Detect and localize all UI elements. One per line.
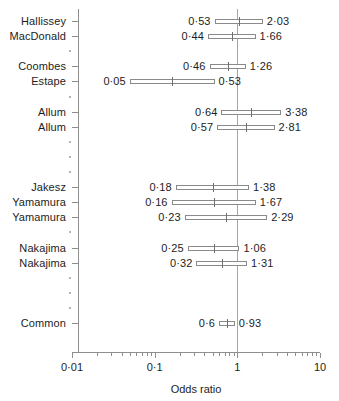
row-spacer-dot xyxy=(69,292,71,294)
x-axis-minor-tick xyxy=(97,353,98,356)
x-axis-minor-tick xyxy=(262,353,263,356)
x-axis-minor-tick xyxy=(229,353,230,356)
x-axis-major-tick xyxy=(237,353,238,358)
y-axis-tick xyxy=(72,66,79,67)
point-estimate-marker-0 xyxy=(239,17,240,26)
x-axis-minor-tick xyxy=(151,353,152,356)
x-axis-minor-tick xyxy=(234,353,235,356)
x-axis-minor-tick xyxy=(122,353,123,356)
y-axis-tick xyxy=(72,248,79,249)
y-axis-tick xyxy=(72,323,79,324)
x-axis-minor-tick xyxy=(225,353,226,356)
ci-upper-label-15: 1·06 xyxy=(243,243,265,254)
row-spacer-dot xyxy=(69,50,71,52)
ci-upper-label-3: 1·26 xyxy=(250,61,272,72)
ci-upper-label-0: 2·03 xyxy=(267,16,289,27)
row-label-jakesz-11: Jakesz xyxy=(31,182,66,193)
y-axis-tick xyxy=(72,202,79,203)
point-estimate-marker-1 xyxy=(232,32,233,41)
x-axis-minor-tick xyxy=(147,353,148,356)
x-axis-minor-tick xyxy=(136,353,137,356)
x-axis-tick-label-2: 1 xyxy=(234,362,240,373)
x-axis-minor-tick xyxy=(194,353,195,356)
y-axis-tick xyxy=(72,127,79,128)
x-axis-minor-tick xyxy=(277,353,278,356)
point-estimate-marker-15 xyxy=(214,244,215,253)
row-spacer-dot xyxy=(69,171,71,173)
row-label-estape-4: Estape xyxy=(31,76,66,87)
row-spacer-dot xyxy=(69,277,71,279)
ci-lower-label-0: 0·53 xyxy=(188,16,210,27)
ci-lower-label-15: 0·25 xyxy=(161,243,183,254)
x-axis-tick-label-3: 10 xyxy=(314,362,326,373)
point-estimate-marker-4 xyxy=(172,77,173,86)
x-axis-minor-tick xyxy=(213,353,214,356)
x-axis-minor-tick xyxy=(130,353,131,356)
ci-upper-label-12: 1·67 xyxy=(260,197,282,208)
x-axis-major-tick xyxy=(320,353,321,358)
row-label-coombes-3: Coombes xyxy=(18,61,66,72)
x-axis-tick-label-0: 0·01 xyxy=(61,362,83,373)
x-axis-minor-tick xyxy=(316,353,317,356)
ci-lower-label-13: 0·23 xyxy=(158,212,180,223)
x-axis-minor-tick xyxy=(180,353,181,356)
row-spacer-dot xyxy=(69,307,71,309)
point-estimate-marker-7 xyxy=(246,123,247,132)
x-axis-minor-tick xyxy=(111,353,112,356)
row-label-nakajima-15: Nakajima xyxy=(19,243,66,254)
ci-lower-label-16: 0·32 xyxy=(170,258,192,269)
row-label-yamamura-13: Yamamura xyxy=(12,212,66,223)
ci-upper-label-7: 2·81 xyxy=(279,122,301,133)
y-axis-tick xyxy=(72,21,79,22)
x-axis-tick-label-1: 0·1 xyxy=(147,362,163,373)
ci-lower-label-12: 0·16 xyxy=(145,197,167,208)
row-spacer-dot xyxy=(69,141,71,143)
ci-lower-label-1: 0·44 xyxy=(181,31,203,42)
point-estimate-marker-13 xyxy=(226,213,227,222)
x-axis-line xyxy=(72,352,320,353)
ci-lower-label-11: 0·18 xyxy=(149,182,171,193)
x-axis-major-tick xyxy=(155,353,156,358)
y-axis-tick xyxy=(72,263,79,264)
row-label-hallissey-0: Hallissey xyxy=(21,16,66,27)
x-axis-minor-tick xyxy=(142,353,143,356)
row-label-macdonald-1: MacDonald xyxy=(9,31,66,42)
reference-line-or-1 xyxy=(237,9,238,352)
row-spacer-dot xyxy=(69,96,71,98)
x-axis-minor-tick xyxy=(295,353,296,356)
row-label-allum-6: Allum xyxy=(38,107,66,118)
ci-upper-label-13: 2·29 xyxy=(271,212,293,223)
x-axis-title: Odds ratio xyxy=(171,384,222,395)
point-estimate-marker-3 xyxy=(228,62,229,71)
ci-upper-label-1: 1·66 xyxy=(260,31,282,42)
ci-lower-label-4: 0·05 xyxy=(103,76,125,87)
x-axis-minor-tick xyxy=(204,353,205,356)
ci-lower-label-20: 0·6 xyxy=(199,318,215,329)
row-spacer-dot xyxy=(69,156,71,158)
y-axis-line xyxy=(78,9,79,352)
x-axis-major-tick xyxy=(72,353,73,358)
point-estimate-marker-20 xyxy=(227,319,228,328)
y-axis-tick xyxy=(72,217,79,218)
row-label-common-20: Common xyxy=(21,318,66,329)
ci-upper-label-6: 3·38 xyxy=(285,107,307,118)
ci-lower-label-3: 0·46 xyxy=(183,61,205,72)
ci-lower-label-7: 0·57 xyxy=(191,122,213,133)
x-axis-minor-tick xyxy=(312,353,313,356)
point-estimate-marker-16 xyxy=(222,259,223,268)
x-axis-minor-tick xyxy=(302,353,303,356)
y-axis-tick xyxy=(72,187,79,188)
row-spacer-dot xyxy=(69,231,71,233)
y-axis-tick xyxy=(72,36,79,37)
point-estimate-marker-6 xyxy=(251,108,252,117)
ci-upper-label-11: 1·38 xyxy=(253,182,275,193)
ci-upper-label-16: 1·31 xyxy=(251,258,273,269)
ci-upper-label-4: 0·53 xyxy=(219,76,241,87)
point-estimate-marker-11 xyxy=(213,183,214,192)
x-axis-minor-tick xyxy=(307,353,308,356)
row-label-allum-7: Allum xyxy=(38,122,66,133)
row-label-yamamura-12: Yamamura xyxy=(12,197,66,208)
point-estimate-marker-12 xyxy=(214,198,215,207)
ci-lower-label-6: 0·64 xyxy=(195,107,217,118)
x-axis-minor-tick xyxy=(219,353,220,356)
